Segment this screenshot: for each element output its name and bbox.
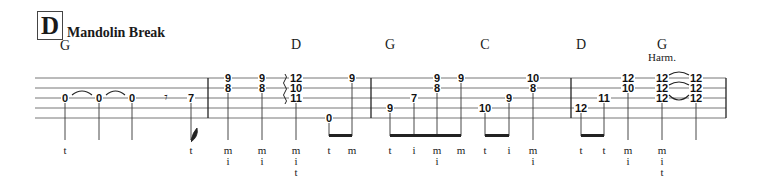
fingering: t [327,145,330,156]
fingering: mi [624,145,633,167]
fret-number: 8 [434,82,440,94]
tie [669,72,689,75]
beam [485,134,509,137]
fret-number: 11 [598,92,610,104]
beam [581,134,604,137]
fret-number: 9 [458,72,464,84]
fret-number: 8 [225,82,231,94]
finger-label: t [292,167,301,178]
finger-label: t [483,145,486,156]
fingering: t [483,145,486,156]
fingering: t [63,145,66,156]
fingering: i [507,145,510,156]
fingering: mi [529,145,538,167]
eighth-rest-icon: 𝄾 [164,90,168,105]
fret-number: 12 [690,92,702,104]
fret-number: 8 [259,82,265,94]
fret-number: 12 [575,102,587,114]
fret-number: 11 [290,92,302,104]
fret-number: 10 [622,82,634,94]
fret-number: 0 [96,92,102,104]
finger-label: i [224,156,233,167]
finger-label: m [348,145,357,156]
fret-number: 0 [326,112,332,124]
tie [669,82,689,85]
fret-number: 0 [129,92,135,104]
tie [72,91,92,95]
finger-label: t [579,145,582,156]
fingering: mi [224,145,233,167]
fingering: mi [258,145,267,167]
finger-label: t [602,145,605,156]
eighth-flag-icon [191,128,197,142]
finger-label: i [258,156,267,167]
fingering: mit [658,145,667,178]
fingering: m [348,145,357,156]
fret-number: 7 [188,92,194,104]
fingering: mit [292,145,301,178]
finger-label: i [412,145,415,156]
finger-label: m [457,145,466,156]
fingering: t [189,145,192,156]
fret-number: 9 [387,102,393,114]
fingering: mi [433,145,442,167]
fingering: t [602,145,605,156]
fret-number: 0 [62,92,68,104]
fingering: t [579,145,582,156]
fingering: i [412,145,415,156]
fret-number: 10 [479,102,491,114]
fret-number: 12 [656,92,668,104]
fingering: m [457,145,466,156]
finger-label: t [327,145,330,156]
finger-label: i [529,156,538,167]
beam [390,134,461,137]
finger-label: i [507,145,510,156]
fret-number: 9 [506,92,512,104]
tie [106,91,125,95]
beam [329,134,352,137]
fret-number: 7 [411,92,417,104]
finger-label: i [433,156,442,167]
fret-number: 9 [349,72,355,84]
finger-label: t [189,145,192,156]
finger-label: t [63,145,66,156]
fingering: t [388,145,391,156]
finger-label: i [624,156,633,167]
finger-label: t [388,145,391,156]
tab-staff: 000𝄾798981210110997989109108121112101212… [0,0,762,186]
fret-number: 8 [530,82,536,94]
finger-label: t [658,167,667,178]
